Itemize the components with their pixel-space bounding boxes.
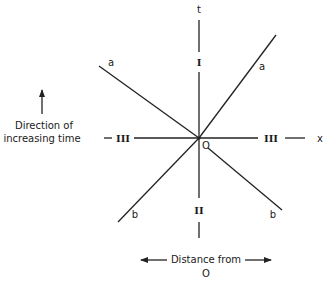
distance-caption: Distance from O [141, 254, 271, 279]
x-axis: x [104, 133, 323, 144]
region-label-left: III [116, 133, 130, 144]
space-time-diagram: t x I II III III a a b b O Direction of … [0, 0, 328, 284]
time-direction-line2: increasing time [3, 133, 80, 144]
line-b-left [118, 138, 199, 222]
region-label-right: III [264, 133, 278, 144]
time-direction-caption: Direction of increasing time [3, 90, 80, 144]
origin-label: O [202, 140, 210, 151]
region-label-bottom: II [194, 205, 204, 216]
line-a-right-label: a [259, 61, 265, 72]
line-b-left-label: b [132, 209, 138, 220]
t-axis-label: t [197, 4, 201, 15]
line-a-right [199, 35, 276, 138]
distance-line1: Distance from [171, 254, 241, 265]
x-axis-label: x [317, 133, 323, 144]
line-a-left [99, 66, 199, 138]
distance-line2: O [202, 268, 210, 279]
line-b-right-label: b [270, 209, 276, 220]
line-a: a a [99, 35, 276, 138]
line-a-left-label: a [108, 57, 114, 68]
region-label-top: I [197, 57, 202, 68]
t-axis: t [197, 4, 201, 238]
origin-point [197, 136, 200, 139]
time-direction-line1: Direction of [15, 120, 73, 131]
line-b-right [208, 148, 282, 210]
